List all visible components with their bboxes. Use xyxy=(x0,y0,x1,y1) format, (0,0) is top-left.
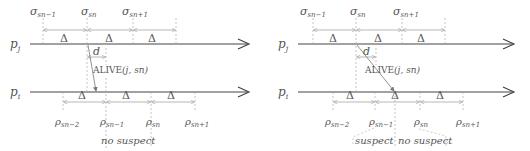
process-pi-label: pi xyxy=(10,85,21,101)
sigma-markers xyxy=(43,18,176,92)
delta-label: Δ xyxy=(436,89,444,102)
process-pj-label: pj xyxy=(278,37,289,53)
delta-label: Δ xyxy=(122,89,130,102)
sigma-sn-label: σsn xyxy=(81,5,97,19)
delta-label: Δ xyxy=(346,89,354,102)
sigma-sn-plus1-label: σsn+1 xyxy=(393,5,419,19)
sigma-sn-plus1-label: σsn+1 xyxy=(122,5,148,19)
delta-label: Δ xyxy=(374,32,382,45)
d-label: d xyxy=(363,45,370,58)
no-suspect-label: no suspect xyxy=(398,135,453,146)
delta-label: Δ xyxy=(329,32,337,45)
delta-label: Δ xyxy=(167,89,175,102)
sigma-sn-minus1-label: σsn−1 xyxy=(30,5,56,19)
delta-label: Δ xyxy=(105,32,113,45)
left-panel: pj pi σsn−1 σsn σsn+1 Δ Δ Δ d xyxy=(10,5,249,148)
right-panel: pj pi σsn−1 σsn σsn+1 Δ Δ Δ d ALIVE(j, s… xyxy=(278,5,514,148)
process-pj-label: pj xyxy=(10,37,21,53)
rho-sn-minus2-label: ρsn−2 xyxy=(54,116,80,129)
delta-label: Δ xyxy=(417,32,425,45)
sigma-markers xyxy=(313,18,445,92)
rho-sn-minus1-label: ρsn−1 xyxy=(368,116,393,129)
failure-detector-timing-diagram: pj pi σsn−1 σsn σsn+1 Δ Δ Δ d xyxy=(0,0,530,151)
rho-sn-plus1-label: ρsn+1 xyxy=(455,116,480,129)
no-suspect-label: no suspect xyxy=(101,135,156,146)
sigma-sn-label: σsn xyxy=(350,5,366,19)
rho-sn-label: ρsn xyxy=(145,116,160,129)
delta-label: Δ xyxy=(148,32,156,45)
process-pi-label: pi xyxy=(278,85,289,101)
alive-message-label: ALIVE(j, sn) xyxy=(92,65,149,75)
rho-sn-minus2-label: ρsn−2 xyxy=(324,116,350,129)
suspect-label: suspect xyxy=(355,135,395,146)
rho-sn-label: ρsn xyxy=(413,116,428,129)
sigma-sn-minus1-label: σsn−1 xyxy=(300,5,326,19)
delta-label: Δ xyxy=(60,32,68,45)
delta-label: Δ xyxy=(391,89,399,102)
d-label: d xyxy=(93,45,100,58)
alive-message-label: ALIVE(j, sn) xyxy=(364,65,421,75)
delta-label: Δ xyxy=(78,89,86,102)
rho-sn-plus1-label: ρsn+1 xyxy=(184,116,209,129)
rho-sn-minus1-label: ρsn−1 xyxy=(99,116,124,129)
